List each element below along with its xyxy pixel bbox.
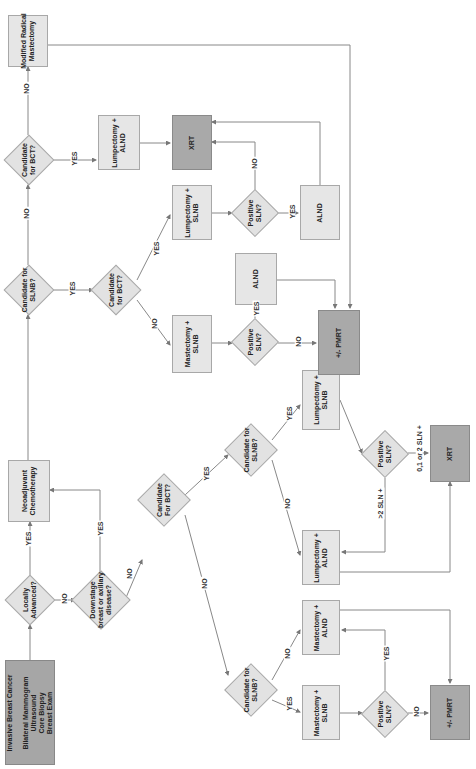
edge-label-yes: YES (253, 300, 260, 316)
box-xrt-upper: XRT (172, 115, 212, 170)
box-alnd-mid: ALND (235, 253, 277, 305)
box-label: Lumpectomy + ALND (313, 533, 329, 583)
decision-label: Positive SLN? (247, 200, 263, 227)
edge-label-0-1-2-sln: 0,1 or 2 SLN + (416, 424, 423, 473)
edge-label-no: NO (201, 577, 208, 590)
edge-label-yes: YES (25, 530, 32, 546)
box-label: Mastectomy + SLNB (184, 321, 200, 368)
decision-locally-advanced: Locally Advanced? (5, 575, 55, 625)
box-pmrt-lower: +/- PMRT (430, 685, 470, 740)
edge-label-yes: YES (71, 150, 78, 166)
box-mastectomy-slnb-lower: Mastectomy + SLNB (302, 685, 340, 740)
decision-label: Positive SLN? (247, 329, 263, 356)
edge-label-yes: YES (153, 240, 160, 256)
edge-label-no: NO (151, 317, 158, 330)
edge-label-yes: YES (289, 203, 296, 219)
decision-label: Locally Advanced? (22, 581, 38, 619)
edge-label-no: NO (23, 207, 30, 220)
start-box-label: Invasive Breast Cancer Bilateral Mammogr… (6, 674, 54, 751)
box-neoadjuvant-chemotherapy: Neoadjuvant Chemotherapy (8, 460, 50, 522)
box-lumpectomy-slnb-upper: Lumpectomy + SLNB (172, 185, 212, 240)
decision-candidate-bct-inner: Candidate for BCT? (93, 265, 139, 315)
decision-candidate-slnb-lower-no: Candidate for SLNB? (228, 660, 274, 720)
decision-candidate-bct-upper: Candidate for BCT? (5, 135, 53, 185)
decision-label: Positive SLN? (377, 441, 393, 468)
decision-label: Candidate for BCT? (108, 273, 124, 307)
box-label: XRT (188, 136, 196, 150)
decision-positive-sln-upper-left: Positive SLN? (232, 318, 278, 366)
decision-label: Candidate for SLNB? (21, 267, 37, 312)
box-label: ALND (316, 203, 324, 222)
box-label: ALND (252, 269, 260, 288)
edge-label-no: NO (61, 592, 68, 605)
box-label: Lumpectomy + SLNB (184, 188, 200, 238)
decision-label: Candidate for SLNB? (243, 427, 259, 472)
box-label: Mastectomy + SLNB (313, 689, 329, 736)
decision-label: Candidate For BCT? (156, 483, 172, 517)
edge-label-no: NO (126, 567, 133, 580)
decision-candidate-bct-lower: Candidate For BCT? (140, 470, 188, 530)
box-pmrt-upper: +/- PMRT (318, 310, 360, 375)
connector-lines (0, 0, 476, 769)
box-xrt-lower: XRT (430, 425, 470, 482)
box-label: XRT (446, 447, 454, 461)
edge-label-yes: YES (286, 405, 293, 421)
edge-label-no: NO (295, 335, 302, 348)
decision-label: Positive SLN? (377, 701, 393, 728)
decision-label: Downstage breast or axillary disease? (89, 572, 113, 628)
edge-label-yes: YES (69, 280, 76, 296)
box-label: Lumpectomy + SLNB (313, 375, 329, 425)
decision-downstage: Downstage breast or axillary disease? (75, 570, 127, 630)
box-modified-radical-mastectomy: Modified Radical Mastectomy (8, 15, 48, 67)
box-label: Lumpectomy + ALND (111, 118, 127, 168)
start-box-invasive-breast-cancer: Invasive Breast Cancer Bilateral Mammogr… (5, 660, 55, 765)
decision-positive-sln-lower-right: Positive SLN? (362, 430, 408, 478)
decision-candidate-slnb-lower-yes: Candidate for SLNB? (228, 420, 274, 480)
edge-label-no: NO (284, 497, 291, 510)
decision-label: Candidate for BCT? (21, 143, 37, 177)
box-label: Mastectomy + ALND (313, 604, 329, 651)
box-lumpectomy-slnb-lower: Lumpectomy + SLNB (302, 370, 340, 430)
edge-label-no: NO (413, 705, 420, 718)
edge-label-yes: YES (97, 520, 104, 536)
box-lumpectomy-alnd-upper: Lumpectomy + ALND (98, 115, 140, 170)
decision-candidate-slnb-upper: Candidate for SLNB? (5, 265, 53, 315)
box-label: +/- PMRT (446, 697, 454, 727)
edge-label-no: NO (23, 82, 30, 95)
box-label: Modified Radical Mastectomy (20, 13, 36, 69)
box-mastectomy-alnd-lower: Mastectomy + ALND (302, 600, 340, 655)
edge-label-no: NO (251, 157, 258, 170)
box-alnd-right: ALND (300, 185, 340, 240)
edge-label-yes: YES (286, 695, 293, 711)
box-mastectomy-slnb-upper: Mastectomy + SLNB (172, 315, 212, 373)
box-label: Neoadjuvant Chemotherapy (21, 466, 37, 515)
edge-label-no: NO (284, 647, 291, 660)
edge-label-yes: YES (383, 645, 390, 661)
edge-label-yes: YES (203, 465, 210, 481)
decision-positive-sln-lower-left: Positive SLN? (362, 690, 408, 738)
decision-positive-sln-upper-right: Positive SLN? (232, 190, 278, 236)
box-lumpectomy-alnd-lower: Lumpectomy + ALND (302, 530, 340, 585)
box-label: +/- PMRT (335, 327, 343, 357)
edge-label-gt2-sln: >2 SLN + (377, 488, 384, 520)
decision-label: Candidate for SLNB? (243, 667, 259, 712)
